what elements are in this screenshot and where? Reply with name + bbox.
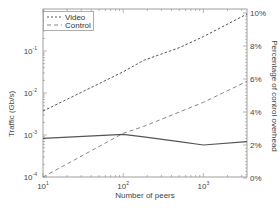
y2-tick-label: 4% [250,108,262,117]
y2-tick-label: 2% [250,141,262,150]
plot-area-border [43,9,247,177]
y2-tick-label: 10% [250,9,266,18]
y-tick-label: 10-4 [24,171,38,182]
y2-tick-label: 8% [250,42,262,51]
legend: Video Control [44,12,94,31]
x-axis-label: Number of peers [115,191,175,200]
series-control-line [43,81,247,177]
traffic-chart: 10110210310-110-210-310-40%2%4%6%8%10% V… [0,0,280,208]
series-control-overhead-line [43,134,247,145]
y2-tick-label: 0% [250,174,262,183]
plot-frame [43,9,247,177]
y-axis-label: Traffic (Gb/s) [7,91,16,138]
x-tick-label: 102 [117,180,129,191]
y-tick-label: 10-2 [24,87,38,98]
x-tick-label: 101 [37,180,49,191]
y2-tick-label: 6% [250,75,262,84]
y2-axis-label: Percentage of control overhead [270,40,279,152]
legend-control-label: Control [65,21,91,30]
x-tick-label: 103 [198,180,210,191]
data-series [43,14,247,177]
y-tick-label: 10-3 [24,129,38,140]
y-tick-label: 10-1 [24,45,38,56]
axis-ticks: 10110210310-110-210-310-40%2%4%6%8%10% [24,9,266,191]
